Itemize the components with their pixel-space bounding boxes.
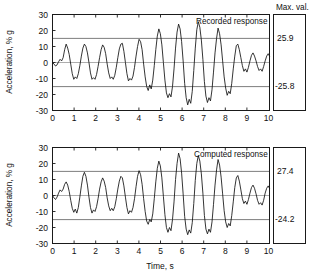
y-tick-labels: 30 20 10 0 -10 -20 -30 bbox=[36, 10, 49, 116]
y-tick-label: -20 bbox=[36, 90, 49, 100]
max-val-box bbox=[274, 148, 306, 244]
x-tick-label: 2 bbox=[93, 113, 98, 123]
y-tick-label: 20 bbox=[39, 159, 49, 169]
y-tick-label: 30 bbox=[39, 10, 49, 20]
y-axis-label: Acceleration, % g bbox=[5, 30, 14, 94]
max-val-positive: 25.9 bbox=[277, 33, 294, 43]
x-tick-label: 1 bbox=[72, 246, 77, 256]
y-tick-label: 0 bbox=[43, 191, 48, 201]
x-tick-label: 9 bbox=[245, 246, 250, 256]
x-tick-labels: 0 1 2 3 4 5 6 7 8 9 10 bbox=[50, 113, 273, 123]
recorded-response-chart: Acceleration, % g 30 20 10 0 -10 -20 -30 bbox=[0, 0, 319, 130]
max-val-header: Max. val. bbox=[276, 3, 309, 12]
x-tick-label: 8 bbox=[223, 246, 228, 256]
x-tick-label: 9 bbox=[245, 113, 250, 123]
y-tick-labels: 30 20 10 0 -10 -20 -30 bbox=[36, 143, 49, 249]
x-tick-label: 10 bbox=[264, 246, 274, 256]
y-tick-label: 10 bbox=[39, 42, 49, 52]
x-tick-label: 3 bbox=[115, 246, 120, 256]
figure-root: Acceleration, % g 30 20 10 0 -10 -20 -30 bbox=[0, 0, 319, 274]
x-tick-label: 8 bbox=[223, 113, 228, 123]
x-tick-label: 1 bbox=[72, 113, 77, 123]
max-val-positive: 27.4 bbox=[277, 166, 294, 176]
x-tick-label: 0 bbox=[50, 246, 55, 256]
x-tick-label: 4 bbox=[137, 113, 142, 123]
x-tick-label: 0 bbox=[50, 113, 55, 123]
series-annotation: Recorded response bbox=[196, 17, 268, 26]
x-tick-label: 6 bbox=[180, 246, 185, 256]
y-tick-label: 20 bbox=[39, 26, 49, 36]
y-tick-label: -30 bbox=[36, 106, 49, 116]
y-tick-label: 10 bbox=[39, 175, 49, 185]
max-val-box bbox=[274, 15, 306, 111]
chart-panel-recorded: Acceleration, % g 30 20 10 0 -10 -20 -30 bbox=[0, 0, 319, 130]
x-tick-label: 7 bbox=[201, 246, 206, 256]
y-tick-label: -30 bbox=[36, 239, 49, 249]
y-tick-label: -10 bbox=[36, 74, 49, 84]
y-tick-label: 30 bbox=[39, 143, 49, 153]
x-tick-label: 5 bbox=[158, 246, 163, 256]
x-axis-label: Time, s bbox=[146, 261, 174, 271]
y-tick-label: -20 bbox=[36, 223, 49, 233]
data-trace bbox=[53, 153, 270, 235]
y-tick-label: -10 bbox=[36, 207, 49, 217]
chart-panel-computed: Acceleration, % g 30 20 10 0 -10 -20 -30 bbox=[0, 133, 319, 274]
x-tick-label: 5 bbox=[158, 113, 163, 123]
x-tick-labels: 0 1 2 3 4 5 6 7 8 9 10 bbox=[50, 246, 273, 256]
computed-response-chart: Acceleration, % g 30 20 10 0 -10 -20 -30 bbox=[0, 133, 319, 274]
series-annotation: Computed response bbox=[194, 150, 268, 159]
x-tick-label: 10 bbox=[264, 113, 274, 123]
x-tick-label: 6 bbox=[180, 113, 185, 123]
y-axis-label: Acceleration, % g bbox=[5, 163, 14, 227]
x-tick-label: 7 bbox=[201, 113, 206, 123]
y-tick-label: 0 bbox=[43, 58, 48, 68]
x-tick-label: 3 bbox=[115, 113, 120, 123]
max-val-negative: -24.2 bbox=[275, 214, 295, 224]
x-tick-label: 2 bbox=[93, 246, 98, 256]
max-val-negative: -25.8 bbox=[275, 81, 295, 91]
x-tick-label: 4 bbox=[137, 246, 142, 256]
data-trace bbox=[53, 22, 270, 105]
